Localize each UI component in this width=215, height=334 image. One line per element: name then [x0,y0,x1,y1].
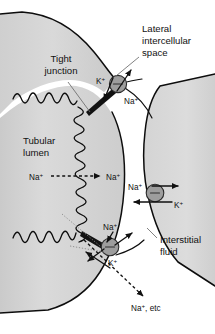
label-lateral-intercellular-space-line2: intercellular [142,35,192,46]
lis-wall-lower [116,240,144,255]
label-tubular-lumen-line1: Tubular [23,135,56,146]
leader-lateral-intercellular-space [116,57,139,76]
label-tubular-lumen-line2: lumen [23,147,49,158]
label-lateral-intercellular-space-line3: space [142,47,168,58]
ion-label-na-etc-paracellular: Na+, etc [131,302,161,313]
label-interstitial-fluid-line1: Interstitial [160,234,201,245]
pump-basal [101,238,119,256]
label-lateral-intercellular-space-line1: Lateral [142,23,171,34]
lower-left-cell-body [0,86,125,313]
diagram-canvas: Tight junction Lateral intercellular spa… [0,0,215,334]
label-tight-junction-line1: Tight [51,53,72,64]
pump-basolateral [146,184,164,202]
label-tight-junction-line2: junction [43,65,77,76]
tubular-transport-diagram: Tight junction Lateral intercellular spa… [0,0,215,334]
ion-label-na-top-pump: Na+ [124,95,138,106]
leader-interstitial-fluid [147,228,157,238]
ion-label-k-bottom-pump: K+ [108,257,117,268]
label-interstitial-fluid-line2: fluid [160,246,178,257]
right-cell-body [144,74,215,286]
arrow-na-out-basal [115,233,132,245]
ion-label-na-right-pump: Na+ [128,181,142,192]
